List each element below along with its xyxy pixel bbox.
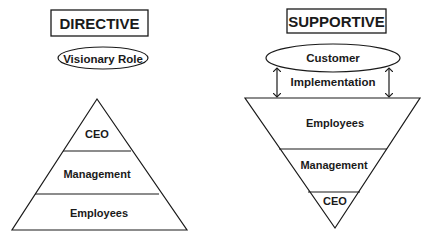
supportive-level-management: Management — [300, 159, 368, 171]
customer-label: Customer — [306, 52, 360, 64]
supportive-level-employees: Employees — [306, 117, 364, 129]
directive-title: DIRECTIVE — [59, 15, 139, 32]
directive-level-employees: Employees — [70, 207, 128, 219]
implementation-label: Implementation — [291, 76, 376, 88]
supportive-title: SUPPORTIVE — [288, 13, 385, 30]
directive-level-ceo: CEO — [85, 128, 109, 140]
directive-level-management: Management — [63, 168, 131, 180]
visionary-role-label: Visionary Role — [63, 53, 143, 65]
leadership-diagram: DIRECTIVE Visionary Role CEO Management … — [0, 0, 427, 240]
supportive-level-ceo: CEO — [323, 195, 347, 207]
supportive-model: SUPPORTIVE Customer Implementation Emplo… — [245, 9, 420, 228]
directive-model: DIRECTIVE Visionary Role CEO Management … — [12, 10, 187, 230]
